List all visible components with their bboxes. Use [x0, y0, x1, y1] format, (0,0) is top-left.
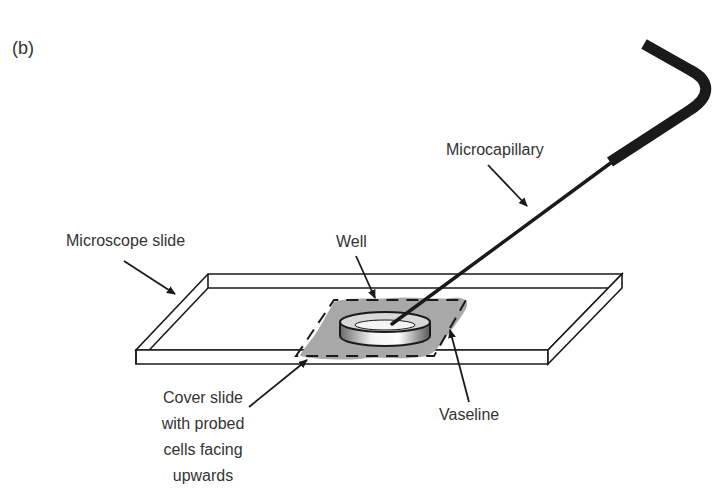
microscope-slide-arrow [124, 261, 175, 294]
cover-slide-label-line-4: upwards [133, 463, 273, 489]
well-label: Well [336, 232, 367, 251]
cover-slide-label-line-1: Cover slide [133, 385, 273, 411]
cover-slide-label: Cover slide with probed cells facing upw… [133, 385, 273, 489]
microscope-slide-label: Microscope slide [66, 231, 185, 250]
cover-slide-label-line-3: cells facing [133, 437, 273, 463]
vaseline-label: Vaseline [439, 405, 499, 424]
experimental-setup-diagram: (b) Microcapillary Microscope slide Well… [0, 0, 728, 500]
microcapillary-arrow [488, 165, 527, 206]
panel-label: (b) [12, 38, 34, 59]
well [340, 312, 430, 346]
microcapillary-label: Microcapillary [446, 140, 544, 159]
cover-slide-label-line-2: with probed [133, 411, 273, 437]
